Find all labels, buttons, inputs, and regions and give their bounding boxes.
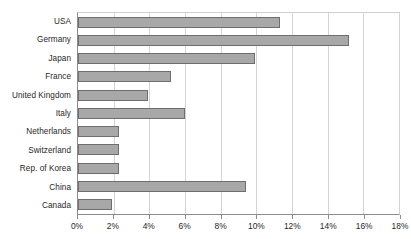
category-label: France (0, 72, 74, 81)
category-label: USA (0, 17, 74, 26)
axis-tick-mark (113, 215, 114, 219)
bar (78, 126, 119, 137)
axis-tick-mark (185, 215, 186, 219)
gridline (399, 13, 400, 214)
bar (78, 163, 119, 174)
category-label: Rep. of Korea (0, 164, 74, 173)
category-label: United Kingdom (0, 91, 74, 100)
axis-tick-mark (149, 215, 150, 219)
category-label: Netherlands (0, 127, 74, 136)
axis-tick-label: 6% (179, 221, 191, 231)
bar-row (78, 163, 399, 174)
bar (78, 71, 171, 82)
axis-tick-label: 18% (392, 221, 409, 231)
axis-tick-mark (221, 215, 222, 219)
axis-tick-label: 12% (284, 221, 301, 231)
category-label: Switzerland (0, 146, 74, 155)
axis-tick-label: 14% (320, 221, 337, 231)
axis-tick-label: 4% (143, 221, 155, 231)
bar-chart: USAGermanyJapanFranceUnited KingdomItaly… (0, 0, 411, 239)
axis-tick-mark (400, 215, 401, 219)
axis-tick-mark (328, 215, 329, 219)
plot-area (77, 12, 400, 215)
bar (78, 17, 280, 28)
axis-tick-mark (256, 215, 257, 219)
bar (78, 35, 349, 46)
bar-row (78, 181, 399, 192)
category-label: Italy (0, 109, 74, 118)
value-axis: 0%2%4%6%8%10%12%14%16%18% (77, 215, 400, 239)
bar-row (78, 108, 399, 119)
category-label: Canada (0, 201, 74, 210)
category-label: Germany (0, 35, 74, 44)
bar-row (78, 35, 399, 46)
bar-row (78, 126, 399, 137)
bar-row (78, 71, 399, 82)
category-axis: USAGermanyJapanFranceUnited KingdomItaly… (0, 12, 74, 215)
axis-tick-mark (77, 215, 78, 219)
axis-tick-label: 8% (214, 221, 226, 231)
bar (78, 199, 112, 210)
bar-row (78, 17, 399, 28)
category-label: China (0, 183, 74, 192)
bars-layer (78, 13, 399, 214)
axis-tick-label: 0% (71, 221, 83, 231)
axis-tick-mark (364, 215, 365, 219)
axis-tick-label: 10% (248, 221, 265, 231)
bar-row (78, 144, 399, 155)
bar (78, 108, 185, 119)
bar (78, 181, 246, 192)
bar-row (78, 90, 399, 101)
bar (78, 53, 255, 64)
bar (78, 90, 148, 101)
category-label: Japan (0, 54, 74, 63)
axis-tick-mark (292, 215, 293, 219)
bar-row (78, 53, 399, 64)
axis-tick-label: 16% (356, 221, 373, 231)
bar-row (78, 199, 399, 210)
bar (78, 144, 119, 155)
axis-tick-label: 2% (107, 221, 119, 231)
